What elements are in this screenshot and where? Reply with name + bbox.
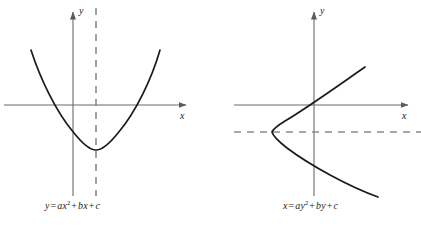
- left-x-axis-label: x: [180, 110, 184, 121]
- caption-right-lhs: x: [283, 200, 288, 211]
- panel-right-horizontal-parabola: x y: [211, 0, 421, 226]
- caption-left-equation: y=ax2+bx+c: [45, 200, 100, 211]
- right-x-axis-label: x: [402, 110, 406, 121]
- caption-left-lhs: y: [45, 200, 50, 211]
- caption-right-equation: x=ay2+by+c: [283, 200, 338, 211]
- parabola-figure: x y x y y=ax2+bx+c: [0, 0, 421, 226]
- caption-right-plus1: +: [308, 200, 316, 211]
- left-graph-svg: [0, 0, 210, 226]
- right-graph-svg: [211, 0, 421, 226]
- right-y-axis-label: y: [320, 5, 324, 16]
- caption-left-term3: c: [95, 200, 100, 211]
- caption-left-plus1: +: [70, 200, 78, 211]
- caption-right-term3: c: [333, 200, 338, 211]
- panel-left-vertical-parabola: x y: [0, 0, 210, 226]
- left-y-axis-label: y: [79, 5, 83, 16]
